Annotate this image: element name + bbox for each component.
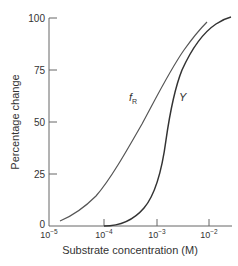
x-tick-1e-4: 10−4: [95, 228, 113, 240]
x-tick-1e-3: 10−3: [148, 228, 166, 240]
series-Y-line: [104, 17, 231, 226]
y-tick-75: 75: [34, 65, 46, 76]
y-tick-25: 25: [34, 169, 46, 180]
y-axis-label: Percentage change: [9, 74, 21, 169]
x-tick-1e-2: 10−2: [200, 228, 218, 240]
series-fR-label: fR: [129, 91, 137, 105]
x-axis: 10−5 10−4 10−3 10−2 Substrate concentrat…: [40, 219, 232, 256]
x-tick-1e-5: 10−5: [40, 228, 58, 240]
chart: 100 75 50 25 0 Percentage change 10−5 10…: [0, 0, 238, 266]
y-axis: 100 75 50 25 0 Percentage change: [9, 13, 57, 230]
series-Y-label: Y: [179, 91, 187, 103]
y-tick-50: 50: [34, 117, 46, 128]
x-axis-label: Substrate concentration (M): [62, 244, 198, 256]
y-tick-0: 0: [39, 219, 45, 230]
y-tick-100: 100: [28, 13, 45, 24]
series-fR-line: [60, 22, 207, 221]
